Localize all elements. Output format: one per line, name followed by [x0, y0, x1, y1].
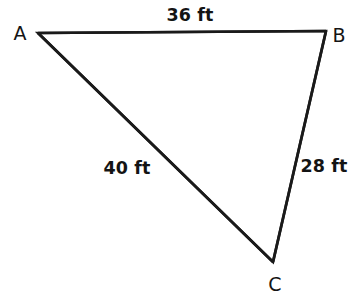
vertex-label-b: B: [332, 26, 345, 45]
side-length-label-bc: 28 ft: [301, 158, 348, 176]
side-length-label-ab: 36 ft: [167, 7, 214, 25]
triangle-shape: [0, 0, 358, 304]
triangle-outline: [38, 31, 326, 262]
vertex-label-c: C: [268, 275, 281, 294]
triangle-figure: A B C 36 ft 40 ft 28 ft: [0, 0, 358, 304]
vertex-label-a: A: [13, 24, 26, 43]
side-length-label-ac: 40 ft: [104, 160, 151, 178]
